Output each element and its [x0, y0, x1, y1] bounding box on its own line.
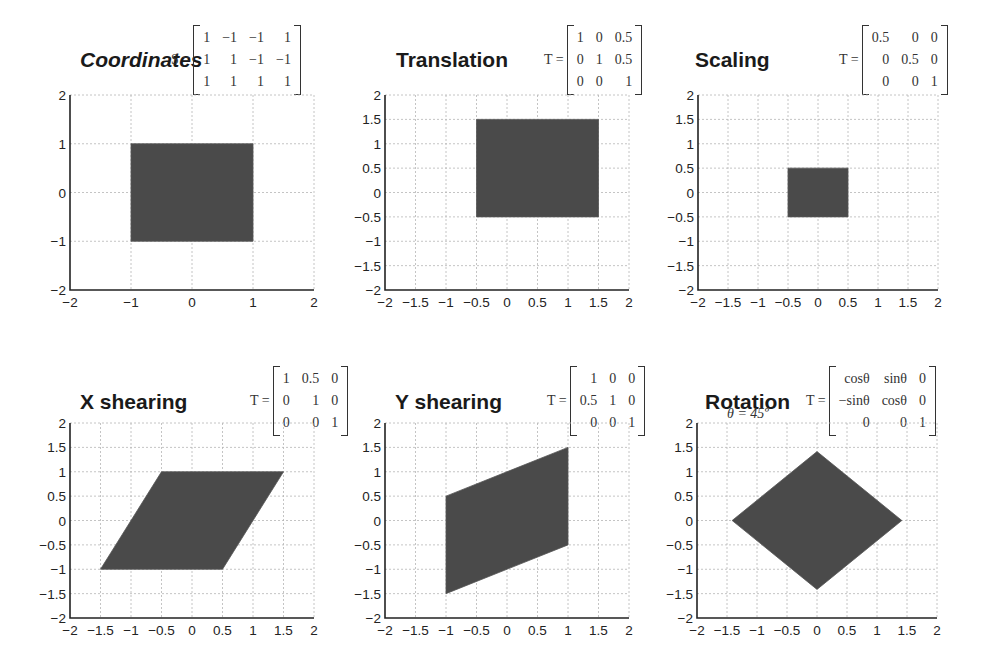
- y-tick-label: −0.5: [666, 538, 693, 553]
- y-tick-label: −1: [678, 562, 693, 577]
- x-tick-label: 0.5: [838, 623, 857, 638]
- x-tick-label: 2: [933, 623, 941, 638]
- x-tick-label: 1.5: [898, 623, 917, 638]
- x-tick-label: 1: [873, 623, 881, 638]
- transformed-shape: [732, 452, 902, 590]
- y-tick-label: 0: [685, 514, 693, 529]
- x-tick-label: −0.5: [774, 623, 801, 638]
- x-tick-label: −1.5: [714, 623, 741, 638]
- plot-rotation: −2−1.5−1−0.500.511.52−2−1.5−1−0.500.511.…: [0, 0, 995, 670]
- y-tick-label: −1.5: [666, 587, 693, 602]
- y-tick-label: 1: [685, 465, 693, 480]
- x-tick-label: 0: [813, 623, 821, 638]
- y-tick-label: 0.5: [674, 489, 693, 504]
- y-tick-label: 1.5: [674, 440, 693, 455]
- y-tick-label: 2: [685, 416, 693, 431]
- x-tick-label: −1: [749, 623, 764, 638]
- y-tick-label: −2: [678, 611, 693, 626]
